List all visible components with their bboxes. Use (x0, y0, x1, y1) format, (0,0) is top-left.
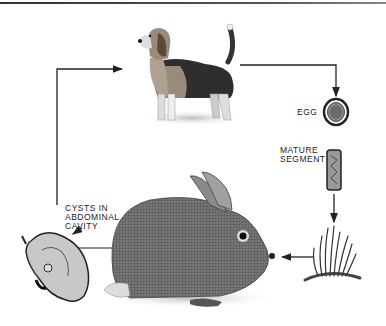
rabbit-illustration (100, 172, 280, 308)
arrow-cysts-to-dog (57, 69, 122, 205)
life-cycle-diagram (0, 0, 386, 326)
egg-illustration (324, 99, 348, 125)
grass-illustration (305, 226, 360, 280)
dog-illustration (138, 24, 244, 126)
cysts-label-line3: CAVITY (65, 222, 98, 231)
cyst-illustration (22, 233, 89, 302)
egg-label: EGG (297, 108, 317, 117)
segment-illustration (327, 150, 341, 190)
arrow-dog-to-egg (240, 65, 336, 96)
mature-segment-label-line2: SEGMENT (280, 155, 326, 164)
